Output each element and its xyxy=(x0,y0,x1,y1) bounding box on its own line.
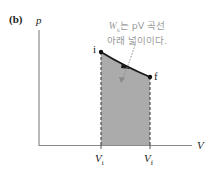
vf-label: Vf xyxy=(144,153,153,167)
point-i-label: i xyxy=(93,44,96,55)
annotation-line2: 아래 넓이이다. xyxy=(107,35,167,46)
v-axis-label: V xyxy=(197,140,204,151)
annotation-note: Ws는 pV 곡선 아래 넓이이다. xyxy=(107,20,167,46)
point-f xyxy=(148,75,152,79)
point-i xyxy=(99,50,103,54)
panel-label: (b) xyxy=(9,14,22,25)
point-f-label: f xyxy=(154,71,158,82)
annotation-line1: Ws는 pV 곡선 xyxy=(107,20,167,35)
vi-label: Vi xyxy=(95,153,104,167)
pv-diagram xyxy=(0,0,212,172)
direction-arrow-icon xyxy=(121,63,130,69)
p-axis-label: p xyxy=(36,15,42,26)
